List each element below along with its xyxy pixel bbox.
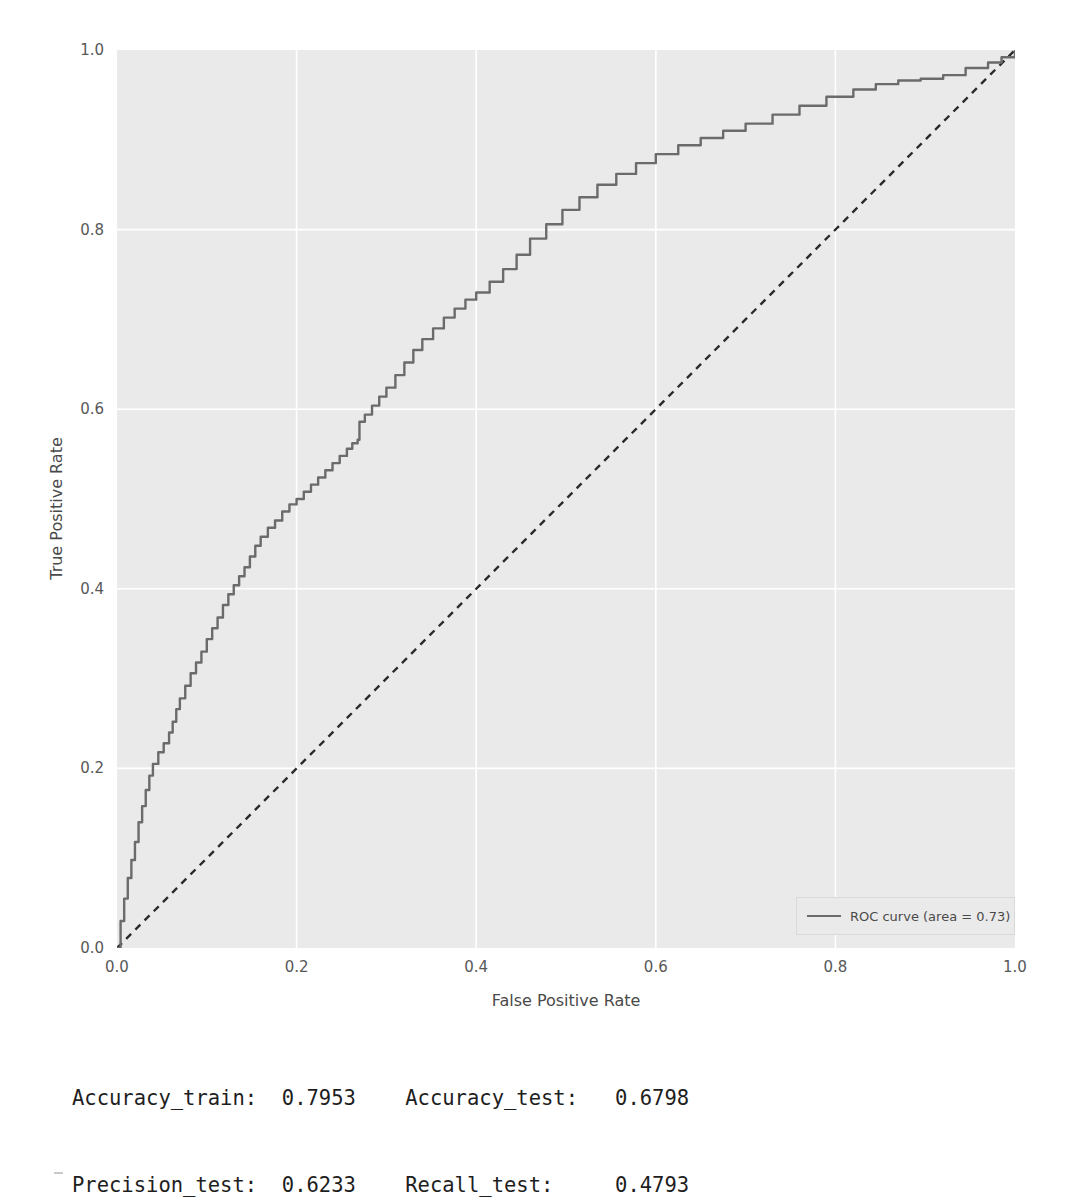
plot-svg [117,50,1015,948]
ytick-label-1: 0.2 [48,759,104,777]
metrics-line-1: Accuracy_train: 0.7953 Accuracy_test: 0.… [72,1084,850,1113]
chance-line [117,50,1015,948]
plot-area: ROC curve (area = 0.73) [117,50,1015,948]
legend-line-swatch [807,915,841,917]
legend-label: ROC curve (area = 0.73) [850,909,1010,924]
ytick-label-0: 0.0 [48,939,104,957]
legend-box[interactable]: ROC curve (area = 0.73) [796,897,1015,935]
xtick-label-4: 0.8 [800,958,870,976]
page-artifact-mark [54,1172,63,1174]
ytick-label-5: 1.0 [48,41,104,59]
xtick-label-0: 0.0 [82,958,152,976]
ytick-label-4: 0.8 [48,221,104,239]
roc-figure: ROC curve (area = 0.73) 0.0 0.2 0.4 0.6 … [0,0,1068,1202]
xtick-label-3: 0.6 [621,958,691,976]
x-axis-label: False Positive Rate [117,991,1015,1010]
xtick-label-5: 1.0 [980,958,1050,976]
metrics-summary: Accuracy_train: 0.7953 Accuracy_test: 0.… [72,1026,850,1202]
xtick-label-1: 0.2 [262,958,332,976]
xtick-label-2: 0.4 [441,958,511,976]
y-axis-label: True Positive Rate [47,409,66,609]
metrics-line-2: Precision_test: 0.6233 Recall_test: 0.47… [72,1171,850,1200]
